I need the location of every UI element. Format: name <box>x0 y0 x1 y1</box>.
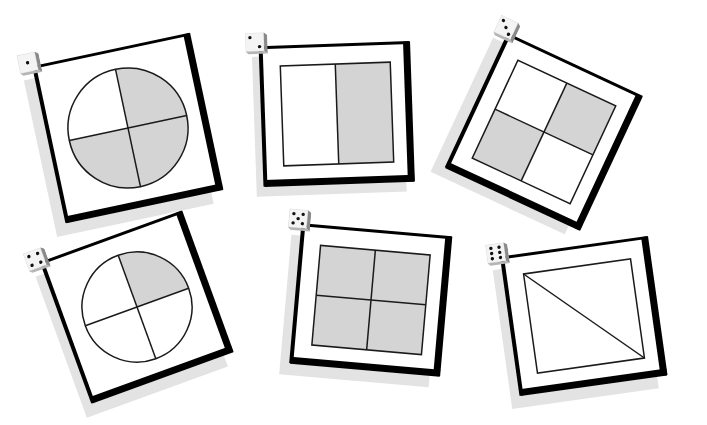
die-5-icon <box>288 209 312 233</box>
shaded-part <box>316 245 375 300</box>
fraction-card-3 <box>446 34 643 231</box>
fraction-card-6 <box>501 236 667 395</box>
fraction-card-4 <box>41 211 233 403</box>
shaded-part <box>367 300 426 355</box>
die-1-icon <box>17 51 43 77</box>
card-face <box>33 33 223 223</box>
card-face <box>501 236 667 395</box>
fraction-shape-square <box>312 245 430 354</box>
card-face <box>290 224 452 377</box>
fraction-card-1 <box>33 33 223 223</box>
shaded-part <box>312 295 371 350</box>
card-face <box>446 34 643 231</box>
fraction-card-5 <box>290 224 452 377</box>
fraction-card-2 <box>260 41 415 186</box>
shaded-part <box>371 250 430 305</box>
die-6-icon <box>485 242 510 267</box>
card-face <box>260 41 415 186</box>
die-2-icon <box>245 32 268 55</box>
